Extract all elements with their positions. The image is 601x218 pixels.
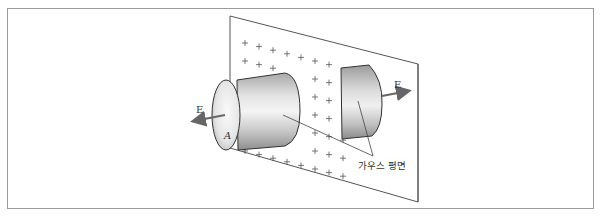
area-label: A xyxy=(223,130,231,141)
gaussian-surface-caption: 가우스 평면 xyxy=(358,160,406,171)
gaussian-pillbox-diagram: E E A 가우스 평면 xyxy=(0,0,601,218)
field-label-left: E xyxy=(196,104,203,115)
field-label-right: E xyxy=(394,79,401,90)
